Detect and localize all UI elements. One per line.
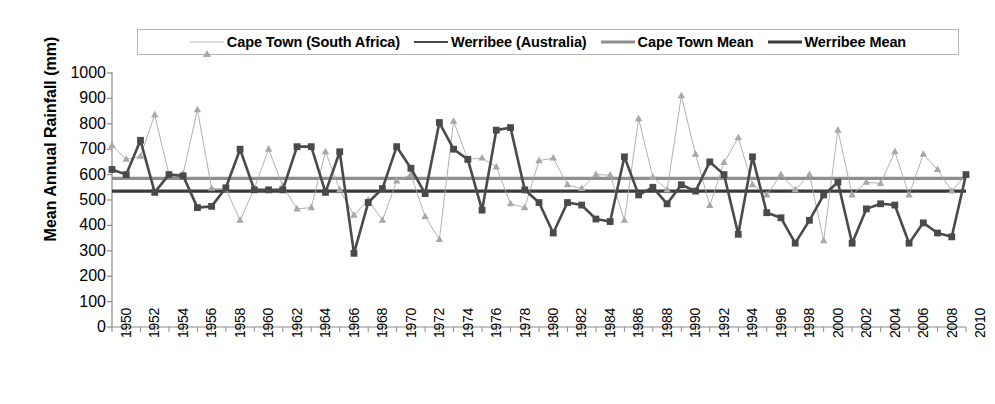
data-point-marker xyxy=(920,150,927,157)
data-point-marker xyxy=(777,171,784,178)
data-point-marker xyxy=(906,240,913,247)
chart-legend: Cape Town (South Africa) Werribee (Austr… xyxy=(137,29,959,55)
data-point-marker xyxy=(308,204,315,211)
data-point-marker xyxy=(749,181,756,188)
data-point-marker xyxy=(678,181,685,188)
y-axis-tick-label: 500 xyxy=(44,192,106,208)
data-point-marker xyxy=(251,186,258,193)
data-point-marker xyxy=(450,146,457,153)
legend-item-cape-town-series[interactable]: Cape Town (South Africa) xyxy=(183,34,407,50)
y-axis-tick-label: 700 xyxy=(44,141,106,157)
data-point-marker xyxy=(322,189,329,196)
data-point-marker xyxy=(521,186,528,193)
data-point-marker xyxy=(963,171,970,178)
data-point-marker xyxy=(422,190,429,197)
x-axis-tick-label: 2010 xyxy=(972,308,988,338)
data-point-marker xyxy=(322,148,329,155)
x-axis-tick-label: 1982 xyxy=(573,308,589,338)
dark-line-icon xyxy=(768,36,802,48)
data-point-marker xyxy=(365,199,372,206)
data-point-marker xyxy=(621,216,628,223)
x-axis-tick-label: 1972 xyxy=(431,308,447,338)
data-point-marker xyxy=(820,192,827,199)
data-point-marker xyxy=(863,205,870,212)
data-point-marker xyxy=(664,200,671,207)
data-point-marker xyxy=(692,188,699,195)
data-point-marker xyxy=(578,202,585,209)
data-point-marker xyxy=(479,207,486,214)
data-point-marker xyxy=(166,171,173,178)
data-point-marker xyxy=(236,216,243,223)
data-point-marker xyxy=(678,92,685,99)
y-axis-tick-label: 0 xyxy=(44,319,106,335)
series-line xyxy=(112,123,966,254)
data-point-marker xyxy=(194,106,201,113)
data-point-marker xyxy=(379,185,386,192)
y-axis-tick-label: 400 xyxy=(44,217,106,233)
x-axis-tick-label: 2006 xyxy=(915,308,931,338)
data-point-marker xyxy=(436,235,443,242)
legend-item-cape-town-mean[interactable]: Cape Town Mean xyxy=(594,34,761,50)
data-point-marker xyxy=(891,202,898,209)
data-point-marker xyxy=(265,186,272,193)
x-axis-tick-label: 2004 xyxy=(887,308,903,338)
plot-area xyxy=(0,0,995,404)
data-point-marker xyxy=(109,166,116,173)
data-point-marker xyxy=(948,233,955,240)
data-point-marker xyxy=(293,205,300,212)
data-point-marker xyxy=(351,250,358,257)
y-axis-tick-label: 600 xyxy=(44,167,106,183)
series-cape-town xyxy=(108,92,969,243)
data-point-marker xyxy=(934,230,941,237)
data-point-marker xyxy=(806,217,813,224)
legend-item-werribee-series[interactable]: Werribee (Australia) xyxy=(407,34,594,50)
data-point-marker xyxy=(208,184,215,191)
data-point-marker xyxy=(564,199,571,206)
data-point-marker xyxy=(706,159,713,166)
x-axis-tick-label: 1988 xyxy=(659,308,675,338)
x-axis-tick-label: 1962 xyxy=(289,308,305,338)
data-point-marker xyxy=(308,143,315,150)
x-axis-tick-label: 1964 xyxy=(317,308,333,338)
data-point-marker xyxy=(393,143,400,150)
y-axis-tick-label: 100 xyxy=(44,294,106,310)
data-point-marker xyxy=(450,117,457,124)
x-axis-tick-label: 1984 xyxy=(602,308,618,338)
data-point-marker xyxy=(464,156,471,163)
data-point-marker xyxy=(649,173,656,180)
data-point-marker xyxy=(778,214,785,221)
data-point-marker xyxy=(607,218,614,225)
data-point-marker xyxy=(621,153,628,160)
x-axis-tick-label: 1974 xyxy=(460,308,476,338)
data-point-marker xyxy=(592,171,599,178)
data-point-marker xyxy=(108,141,115,148)
x-axis-tick-label: 1958 xyxy=(232,308,248,338)
data-point-marker xyxy=(151,189,158,196)
data-point-marker xyxy=(849,240,856,247)
x-axis-tick-label: 1994 xyxy=(744,308,760,338)
x-axis-tick-label: 1992 xyxy=(716,308,732,338)
data-point-marker xyxy=(749,153,756,160)
legend-label: Werribee Mean xyxy=(805,34,907,50)
data-point-marker xyxy=(721,171,728,178)
data-point-marker xyxy=(891,148,898,155)
data-point-marker xyxy=(834,126,841,133)
legend-item-werribee-mean[interactable]: Werribee Mean xyxy=(761,34,914,50)
rainfall-line-chart: Mean Annual Rainfall (mm) 10009008007006… xyxy=(0,0,995,404)
y-axis-tick-labels: 10009008007006005004003002001000 xyxy=(40,0,106,404)
data-point-marker xyxy=(792,240,799,247)
data-point-marker xyxy=(436,119,443,126)
x-axis-tick-label: 2000 xyxy=(830,308,846,338)
data-point-marker xyxy=(137,137,144,144)
y-axis-tick-label: 800 xyxy=(44,116,106,132)
data-point-marker xyxy=(536,199,543,206)
data-point-marker xyxy=(336,148,343,155)
data-point-marker xyxy=(735,134,742,141)
data-point-marker xyxy=(692,150,699,157)
x-axis-tick-label: 1976 xyxy=(488,308,504,338)
data-point-marker xyxy=(507,124,514,131)
data-point-marker xyxy=(920,219,927,226)
data-point-marker xyxy=(550,154,557,161)
data-point-marker xyxy=(265,145,272,152)
data-point-marker xyxy=(606,171,613,178)
